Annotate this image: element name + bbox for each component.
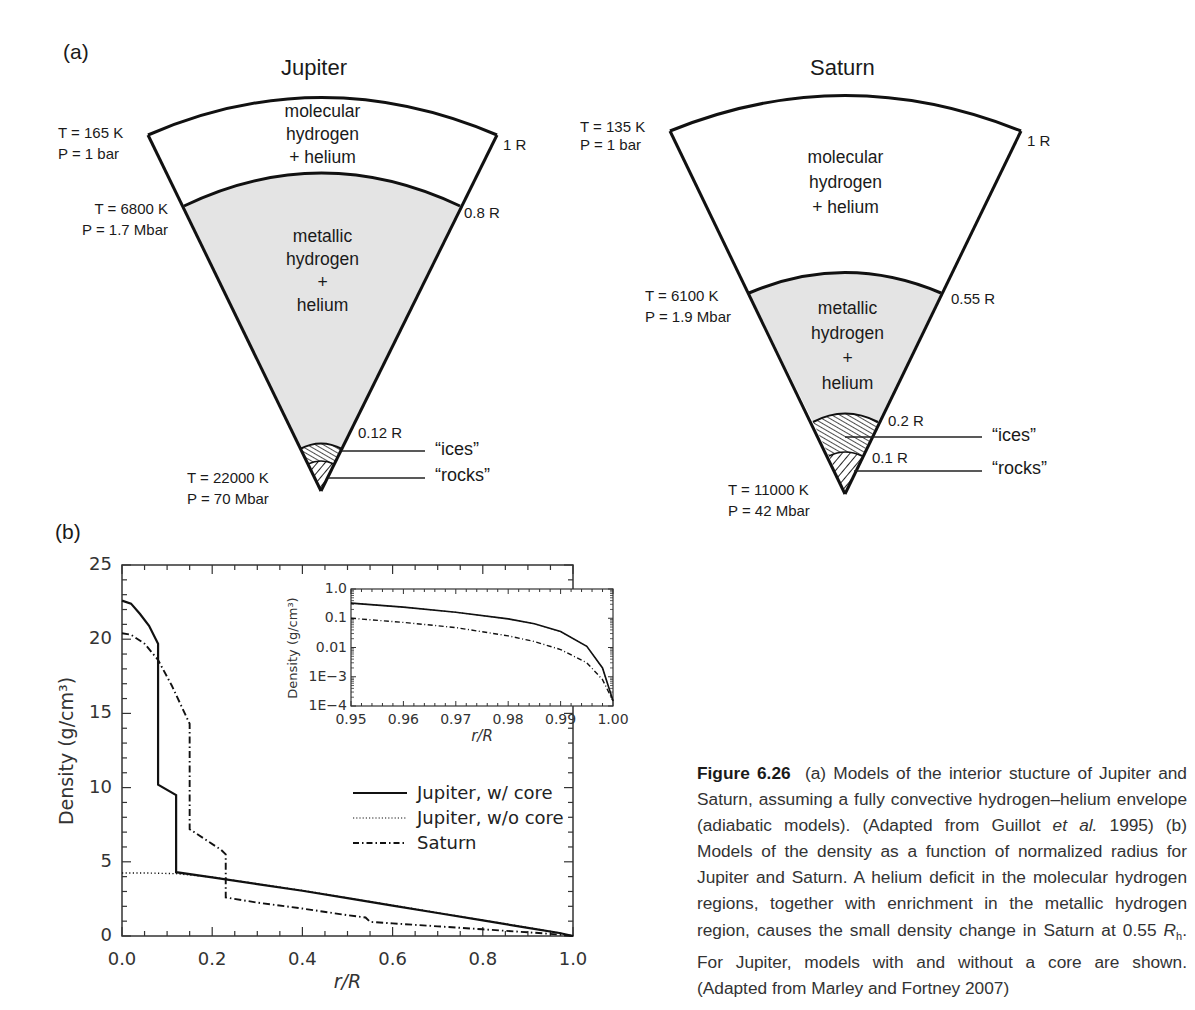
panel-b-label: (b) bbox=[55, 520, 81, 544]
figure-number: Figure 6.26 bbox=[697, 763, 791, 783]
x-tick-label: 0.8 bbox=[468, 948, 497, 969]
x-tick-label: 0.6 bbox=[378, 948, 407, 969]
y-tick-label: 0 bbox=[101, 924, 112, 945]
y-tick-label: 15 bbox=[89, 701, 112, 722]
inset-y-tick-label: 0.1 bbox=[325, 609, 347, 625]
saturn-radius-0-55: 0.55 R bbox=[951, 290, 995, 307]
dotted-line-icon bbox=[353, 813, 407, 823]
saturn-ices-radius: 0.2 R bbox=[888, 412, 924, 429]
y-tick-label: 20 bbox=[89, 627, 112, 648]
inset-y-tick-label: 1E−3 bbox=[309, 668, 347, 684]
series-jupiter-w-core bbox=[122, 601, 573, 936]
inset-y-tick-label: 1E−4 bbox=[309, 697, 347, 713]
inset-y-axis-label: Density (g/cm³) bbox=[285, 597, 300, 698]
dash-dot-line-icon bbox=[353, 838, 407, 848]
y-axis-label: Density (g/cm³) bbox=[55, 676, 77, 824]
saturn-transition-conditions: T = 6100 K P = 1.9 Mbar bbox=[645, 285, 731, 327]
jupiter-metallic-layer-label: metallic hydrogen + helium bbox=[255, 225, 390, 317]
solid-line-icon bbox=[353, 788, 407, 798]
jupiter-rocks-label: “rocks” bbox=[435, 465, 490, 486]
inset-x-tick-label: 0.98 bbox=[493, 711, 524, 727]
inset-x-tick-label: 0.97 bbox=[440, 711, 471, 727]
x-tick-label: 0.4 bbox=[288, 948, 317, 969]
jupiter-surface-conditions: T = 165 K P = 1 bar bbox=[58, 122, 123, 164]
y-tick-label: 10 bbox=[89, 776, 112, 797]
saturn-center-conditions: T = 11000 K P = 42 Mbar bbox=[728, 479, 810, 521]
inset-x-tick-label: 0.99 bbox=[545, 711, 576, 727]
saturn-title: Saturn bbox=[810, 55, 875, 81]
legend-item-jupiter-no-core: Jupiter, w/o core bbox=[353, 805, 564, 830]
jupiter-title: Jupiter bbox=[281, 55, 347, 81]
saturn-rocks-radius: 0.1 R bbox=[872, 449, 908, 466]
jupiter-center-conditions: T = 22000 K P = 70 Mbar bbox=[187, 467, 269, 509]
jupiter-core-radius: 0.12 R bbox=[358, 424, 402, 441]
figure-caption: Figure 6.26 (a) Models of the interior s… bbox=[697, 760, 1187, 1001]
saturn-radius-1: 1 R bbox=[1027, 132, 1050, 149]
inset-y-tick-label: 1.0 bbox=[325, 580, 347, 596]
legend-label: Jupiter, w/o core bbox=[417, 805, 564, 830]
saturn-ices-label: “ices” bbox=[992, 425, 1036, 446]
jupiter-radius-0-8: 0.8 R bbox=[464, 204, 500, 221]
series-jupiter-w-o-core bbox=[122, 873, 573, 936]
legend-item-saturn: Saturn bbox=[353, 830, 564, 855]
x-tick-label: 0.2 bbox=[198, 948, 227, 969]
jupiter-transition-conditions: T = 6800 K P = 1.7 Mbar bbox=[82, 198, 168, 240]
chart-legend: Jupiter, w/ core Jupiter, w/o core Satur… bbox=[353, 780, 564, 855]
x-axis-label: r/R bbox=[334, 970, 361, 992]
jupiter-radius-1: 1 R bbox=[503, 136, 526, 153]
legend-label: Saturn bbox=[417, 830, 476, 855]
x-tick-label: 1.0 bbox=[559, 948, 588, 969]
saturn-molecular-layer-label: molecular hydrogen + helium bbox=[778, 145, 913, 220]
inset-x-tick-label: 1.00 bbox=[597, 711, 628, 727]
saturn-surface-conditions: T = 135 K P = 1 bar bbox=[580, 118, 645, 154]
y-tick-label: 25 bbox=[89, 553, 112, 574]
jupiter-molecular-layer-label: molecular hydrogen + helium bbox=[255, 100, 390, 169]
inset-x-tick-label: 0.95 bbox=[335, 711, 366, 727]
saturn-rocks-label: “rocks” bbox=[992, 458, 1047, 479]
jupiter-ices-label: “ices” bbox=[435, 439, 479, 460]
x-tick-label: 0.0 bbox=[108, 948, 137, 969]
y-tick-label: 5 bbox=[101, 850, 112, 871]
saturn-metallic-layer-label: metallic hydrogen + helium bbox=[780, 296, 915, 396]
legend-item-jupiter-core: Jupiter, w/ core bbox=[353, 780, 564, 805]
inset-x-tick-label: 0.96 bbox=[388, 711, 419, 727]
inset-x-axis-label: r/R bbox=[471, 727, 493, 745]
inset-y-tick-label: 0.01 bbox=[316, 639, 347, 655]
legend-label: Jupiter, w/ core bbox=[417, 780, 553, 805]
